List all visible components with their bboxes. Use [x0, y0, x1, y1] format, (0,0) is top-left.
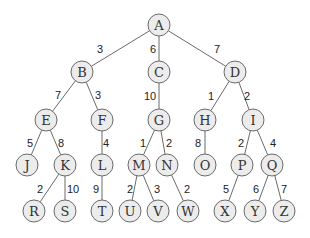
node-label: B: [77, 65, 87, 80]
node-T: T: [91, 200, 113, 222]
edge-weight-B-E: 7: [55, 89, 61, 101]
edge-weight-C-G: 10: [144, 90, 156, 102]
edge-weight-E-J: 5: [27, 137, 33, 149]
node-label: J: [22, 158, 29, 173]
edge-weight-A-C: 6: [150, 43, 156, 55]
edge-weight-Q-Y: 6: [253, 183, 259, 195]
node-D: D: [224, 61, 246, 83]
edge-weight-G-N: 2: [166, 137, 172, 149]
node-label: M: [132, 158, 145, 173]
node-label: C: [154, 65, 164, 80]
edge-weight-I-P: 2: [238, 137, 244, 149]
edge-weight-N-W: 2: [184, 183, 190, 195]
node-N: N: [156, 154, 178, 176]
edge-weight-L-T: 9: [93, 183, 99, 195]
edge-I-P: [245, 131, 251, 155]
node-R: R: [23, 200, 45, 222]
node-label: X: [220, 204, 230, 219]
node-label: Y: [250, 204, 260, 219]
node-C: C: [148, 61, 170, 83]
edge-N-W: [172, 175, 184, 201]
node-label: E: [41, 113, 51, 128]
node-M: M: [128, 154, 150, 176]
edge-I-Q: [257, 130, 267, 155]
edge-weight-D-I: 2: [244, 90, 250, 102]
node-label: N: [161, 158, 172, 173]
node-label: K: [60, 158, 70, 173]
edge-weight-D-H: 1: [208, 90, 214, 102]
node-E: E: [35, 109, 57, 131]
node-W: W: [177, 200, 199, 222]
edge-weight-M-U: 2: [127, 183, 133, 195]
node-label: U: [125, 204, 136, 219]
node-label: W: [181, 204, 195, 219]
node-label: V: [152, 204, 163, 219]
node-J: J: [16, 154, 38, 176]
node-Q: Q: [261, 154, 283, 176]
node-H: H: [194, 109, 216, 131]
node-label: D: [230, 65, 240, 80]
edge-weight-K-R: 2: [37, 183, 43, 195]
edge-weight-B-F: 3: [95, 89, 101, 101]
node-F: F: [91, 109, 113, 131]
edge-weight-P-X: 5: [223, 183, 229, 195]
node-label: A: [153, 18, 164, 33]
node-label: H: [199, 113, 210, 128]
node-label: F: [97, 113, 106, 128]
edge-weight-A-B: 3: [97, 43, 103, 55]
node-U: U: [119, 200, 141, 222]
node-Y: Y: [244, 200, 266, 222]
node-label: Z: [279, 204, 288, 219]
edge-weight-E-K: 8: [58, 137, 64, 149]
node-A: A: [148, 14, 170, 36]
edge-Q-Y: [259, 175, 268, 200]
edge-weight-M-V: 3: [154, 183, 160, 195]
node-S: S: [54, 200, 76, 222]
edge-weight-G-M: 1: [140, 137, 146, 149]
edge-G-N: [161, 131, 165, 154]
node-G: G: [148, 109, 170, 131]
edge-weight-I-Q: 4: [270, 137, 276, 149]
node-label: Q: [267, 158, 278, 173]
edge-weight-K-S: 10: [67, 183, 79, 195]
edge-weight-F-L: 4: [103, 137, 109, 149]
node-V: V: [147, 200, 169, 222]
node-label: G: [154, 113, 164, 128]
node-I: I: [242, 109, 264, 131]
node-label: P: [238, 158, 247, 173]
node-Z: Z: [273, 200, 295, 222]
edge-M-V: [143, 175, 154, 201]
edge-P-X: [229, 175, 238, 200]
node-label: T: [98, 204, 107, 219]
edge-weight-Q-Z: 7: [281, 183, 287, 195]
edge-weight-H-O: 8: [195, 137, 201, 149]
node-label: O: [200, 158, 211, 173]
node-L: L: [91, 154, 113, 176]
node-label: R: [29, 204, 40, 219]
node-X: X: [214, 200, 236, 222]
node-label: S: [61, 204, 70, 219]
tree-diagram: 367731012584128242109232567 ABCDEFGHIJKL…: [0, 0, 310, 238]
node-label: I: [250, 113, 255, 128]
node-label: L: [98, 158, 107, 173]
node-B: B: [71, 61, 93, 83]
edge-weight-A-D: 7: [214, 43, 220, 55]
node-O: O: [194, 154, 216, 176]
node-K: K: [54, 154, 76, 176]
node-P: P: [231, 154, 253, 176]
